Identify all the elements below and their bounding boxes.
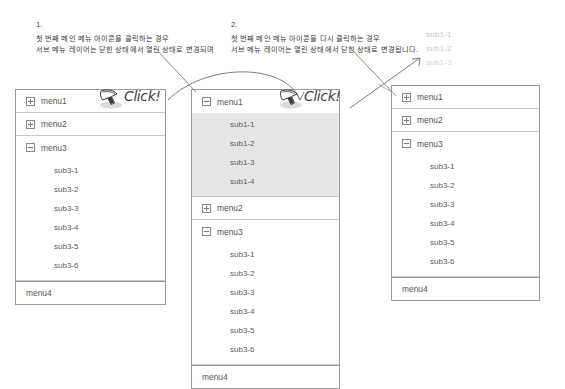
ghost-submenu-item: sub1-1 — [426, 30, 452, 39]
submenu-list-menu3: sub3-1 sub3-2 sub3-3 sub3-4 sub3-5 sub3-… — [16, 159, 165, 281]
click-badge-1: Click! — [98, 88, 174, 112]
annotation-note-1-line2: 서브 메뉴 레이어는 닫힌 상태에서 열린 상태로 변경되며 — [36, 45, 214, 54]
submenu-item[interactable]: sub1-1 — [192, 115, 339, 134]
menu-item-label: menu3 — [417, 139, 443, 149]
annotation-note-2-line1: 첫 번째 메인 메뉴 아이콘을 다시 클릭하는 경우 — [231, 34, 381, 43]
submenu-item[interactable]: sub3-6 — [392, 252, 539, 271]
menu-item-menu3[interactable]: menu3 — [16, 136, 165, 159]
submenu-item[interactable]: sub3-4 — [192, 302, 339, 321]
menu-item-menu2[interactable]: menu2 — [192, 197, 339, 220]
submenu-list-menu3: sub3-1 sub3-2 sub3-3 sub3-4 sub3-5 sub3-… — [192, 243, 339, 365]
menu-item-label: menu2 — [417, 115, 443, 125]
connector-arrow-collapse-head — [412, 58, 420, 66]
connector-line-right-panel — [378, 84, 392, 92]
expand-plus-icon[interactable] — [26, 97, 35, 106]
submenu-item[interactable]: sub1-3 — [192, 153, 339, 172]
menu-panel-after-second-click: menu1 menu2 menu3 sub3-1 sub3-2 sub3-3 s… — [391, 85, 540, 301]
menu-item-menu2[interactable]: menu2 — [392, 109, 539, 132]
menu-item-label: menu3 — [41, 143, 67, 153]
submenu-item[interactable]: sub3-1 — [16, 161, 165, 180]
menu-item-label: menu1 — [217, 97, 243, 107]
submenu-item[interactable]: sub3-5 — [392, 233, 539, 252]
expand-plus-icon[interactable] — [402, 93, 411, 102]
annotation-note-2: 2. 첫 번째 메인 메뉴 아이콘을 다시 클릭하는 경우 서브 메뉴 레이어는… — [231, 19, 418, 56]
expand-plus-icon[interactable] — [202, 204, 211, 213]
submenu-item[interactable]: sub3-1 — [192, 245, 339, 264]
mouse-cursor-icon — [278, 88, 304, 110]
menu-item-label: menu4 — [402, 284, 428, 294]
menu-item-menu4[interactable]: menu4 — [192, 365, 339, 388]
collapse-minus-icon[interactable] — [26, 143, 35, 152]
mouse-cursor-icon — [98, 88, 124, 110]
submenu-item[interactable]: sub3-6 — [16, 256, 165, 275]
ghost-submenu-item: sub1-3 — [426, 58, 452, 67]
submenu-item[interactable]: sub3-2 — [192, 264, 339, 283]
annotation-note-1-number: 1. — [36, 19, 214, 32]
menu-item-menu3[interactable]: menu3 — [392, 132, 539, 155]
click-badge-2: Click! — [278, 88, 354, 112]
collapse-minus-icon[interactable] — [202, 97, 211, 106]
menu-item-label: menu3 — [217, 227, 243, 237]
submenu-item[interactable]: sub3-6 — [192, 340, 339, 359]
menu-item-menu2[interactable]: menu2 — [16, 113, 165, 136]
collapse-minus-icon[interactable] — [402, 139, 411, 148]
menu-item-menu3[interactable]: menu3 — [192, 220, 339, 243]
menu-panel-menu1-expanded: menu1 sub1-1 sub1-2 sub1-3 sub1-4 menu2 … — [191, 89, 340, 389]
click-badge-label: Click! — [304, 88, 341, 104]
connector-line-note2 — [352, 50, 396, 96]
submenu-item[interactable]: sub1-4 — [192, 172, 339, 191]
menu-panel-before-click: menu1 menu2 menu3 sub3-1 sub3-2 sub3-3 s… — [15, 89, 166, 305]
menu-item-label: menu2 — [217, 203, 243, 213]
submenu-list-menu3: sub3-1 sub3-2 sub3-3 sub3-4 sub3-5 sub3-… — [392, 155, 539, 277]
annotation-note-1: 1. 첫 번째 메인 메뉴 아이콘을 클릭하는 경우 서브 메뉴 레이어는 닫힌… — [36, 19, 214, 56]
submenu-item[interactable]: sub3-3 — [392, 195, 539, 214]
menu-item-label: menu4 — [26, 288, 52, 298]
submenu-item[interactable]: sub3-2 — [16, 180, 165, 199]
expand-plus-icon[interactable] — [26, 120, 35, 129]
submenu-list-menu1: sub1-1 sub1-2 sub1-3 sub1-4 — [192, 113, 339, 197]
annotation-note-1-line1: 첫 번째 메인 메뉴 아이콘을 클릭하는 경우 — [36, 34, 169, 43]
submenu-item[interactable]: sub3-5 — [192, 321, 339, 340]
submenu-item[interactable]: sub3-5 — [16, 237, 165, 256]
collapse-minus-icon[interactable] — [202, 227, 211, 236]
menu-item-label: menu1 — [41, 96, 67, 106]
submenu-item[interactable]: sub3-3 — [192, 283, 339, 302]
menu-item-menu1[interactable]: menu1 — [392, 86, 539, 109]
submenu-item[interactable]: sub3-4 — [392, 214, 539, 233]
menu-item-label: menu1 — [417, 92, 443, 102]
annotation-note-2-line2: 서브 메뉴 레이어는 열린 상태에서 닫힌 상태로 변경됩니다. — [231, 45, 418, 54]
click-badge-label: Click! — [124, 88, 161, 104]
menu-item-menu4[interactable]: menu4 — [392, 277, 539, 300]
annotation-note-2-number: 2. — [231, 19, 418, 32]
submenu-item[interactable]: sub3-2 — [392, 176, 539, 195]
submenu-item[interactable]: sub3-1 — [392, 157, 539, 176]
menu-item-label: menu2 — [41, 119, 67, 129]
menu-item-label: menu4 — [202, 372, 228, 382]
menu-item-menu4[interactable]: menu4 — [16, 281, 165, 304]
submenu-item[interactable]: sub3-3 — [16, 199, 165, 218]
submenu-item[interactable]: sub3-4 — [16, 218, 165, 237]
expand-plus-icon[interactable] — [402, 116, 411, 125]
submenu-item[interactable]: sub1-2 — [192, 134, 339, 153]
ghost-submenu-item: sub1-2 — [426, 44, 452, 53]
